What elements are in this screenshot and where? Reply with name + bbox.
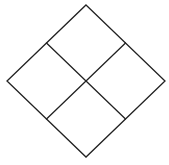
diamond-diagram <box>0 0 169 165</box>
